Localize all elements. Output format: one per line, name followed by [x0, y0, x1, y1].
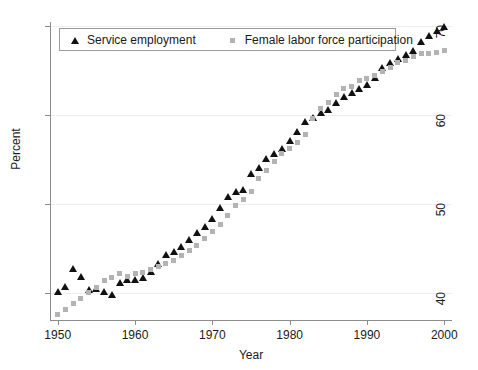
x-tick-label-2000: 2000 [414, 328, 474, 342]
data-point [409, 47, 417, 54]
y-axis-title-label: Percent [9, 128, 23, 169]
x-tick-label-1950: 1950 [28, 328, 88, 342]
data-point [293, 128, 301, 135]
data-point [117, 271, 122, 276]
data-point [264, 168, 269, 173]
data-point [55, 312, 60, 317]
data-point [202, 236, 207, 241]
data-point [310, 116, 315, 121]
data-point [225, 213, 230, 218]
data-point [210, 229, 215, 234]
y-tick-mark-50 [45, 204, 50, 205]
y-axis-title: Percent [8, 0, 24, 298]
data-point [388, 65, 393, 70]
legend-label: Service employment [87, 33, 196, 47]
data-point [187, 248, 192, 253]
data-point [61, 283, 69, 290]
data-point [303, 132, 308, 137]
x-tick-mark-2000 [444, 320, 445, 325]
data-point [363, 81, 371, 88]
data-point [341, 86, 346, 91]
data-point [241, 197, 246, 202]
data-point [86, 290, 91, 295]
x-tick-label-1960: 1960 [105, 328, 165, 342]
data-point [434, 50, 439, 55]
data-point [364, 76, 369, 81]
legend-label: Female labor force participation [245, 33, 413, 47]
data-point [256, 176, 261, 181]
data-point [208, 215, 216, 222]
data-point [442, 48, 447, 53]
data-point [426, 51, 431, 56]
data-point [156, 264, 161, 269]
x-tick-mark-1970 [212, 320, 213, 325]
data-point [324, 106, 332, 113]
data-point [239, 186, 247, 193]
y-tick-mark-40 [45, 293, 50, 294]
data-point [372, 73, 377, 78]
x-axis-line [50, 320, 452, 321]
data-point [148, 267, 153, 272]
data-point [108, 291, 116, 298]
legend-entry-0[interactable]: Service employment [70, 33, 196, 47]
data-point [357, 78, 362, 83]
x-tick-label-1990: 1990 [337, 328, 397, 342]
data-point [249, 189, 254, 194]
data-point [63, 307, 68, 312]
data-point [216, 204, 224, 211]
data-point [71, 301, 76, 306]
data-point [193, 229, 201, 236]
data-point [69, 265, 77, 272]
x-tick-mark-1950 [58, 320, 59, 325]
data-point [255, 164, 263, 171]
data-point [179, 253, 184, 258]
data-point [380, 69, 385, 74]
gridline-y-60 [50, 115, 452, 116]
y-tick-label-60: 60 [434, 114, 448, 127]
data-point [349, 84, 354, 89]
data-point [163, 261, 168, 266]
data-point [218, 222, 223, 227]
data-point [403, 58, 408, 63]
data-point [194, 243, 199, 248]
x-tick-mark-1990 [367, 320, 368, 325]
data-point [171, 258, 176, 263]
data-point [326, 100, 331, 105]
y-tick-mark-70 [45, 26, 50, 27]
data-point [133, 271, 138, 276]
data-point [102, 278, 107, 283]
triangle-marker-icon [70, 35, 80, 45]
y-tick-mark-60 [45, 115, 50, 116]
square-marker-icon [228, 35, 238, 45]
data-point [411, 54, 416, 59]
data-point [185, 236, 193, 243]
gridline-y-50 [50, 204, 452, 205]
data-point [272, 159, 277, 164]
data-point [94, 285, 99, 290]
data-point [78, 296, 83, 301]
data-point [395, 60, 400, 65]
y-axis-line [50, 22, 51, 320]
plot-area: 40506070 195019601970198019902000 Year [50, 22, 452, 320]
legend-entry-1[interactable]: Female labor force participation [228, 33, 413, 47]
data-point [287, 146, 292, 151]
y-tick-label-40: 40 [434, 292, 448, 305]
data-point [318, 106, 323, 111]
data-point [419, 51, 424, 56]
data-point [140, 270, 145, 275]
chart-container: Percent 40506070 19501960197019801990200… [0, 0, 478, 370]
data-point [334, 92, 339, 97]
data-point [417, 38, 425, 45]
x-tick-label-1980: 1980 [260, 328, 320, 342]
x-tick-mark-1980 [290, 320, 291, 325]
data-point [177, 243, 185, 250]
data-point [286, 137, 294, 144]
data-point [233, 203, 238, 208]
data-point [77, 273, 85, 280]
x-tick-mark-1960 [135, 320, 136, 325]
data-point [201, 223, 209, 230]
data-point [440, 23, 448, 30]
chart-legend: Service employmentFemale labor force par… [59, 28, 396, 51]
y-tick-label-50: 50 [434, 203, 448, 216]
x-axis-title: Year [50, 348, 452, 362]
